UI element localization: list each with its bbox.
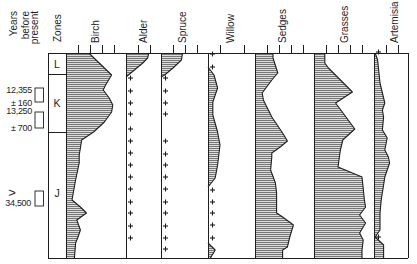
date-sample-box: [35, 191, 44, 206]
presence-plus-icon: [210, 211, 215, 216]
presence-plus-icon: [163, 112, 168, 117]
presence-plus-icon: [128, 200, 133, 205]
presence-plus-icon: [210, 188, 215, 193]
presence-plus-icon: [163, 76, 168, 81]
presence-plus-icon: [163, 236, 168, 241]
presence-plus-icon: [128, 112, 133, 117]
presence-plus-icon: [163, 224, 168, 229]
taxon-label-artemisia: Artemisia: [389, 1, 400, 43]
presence-plus-icon: [128, 187, 133, 192]
presence-plus-icon: [210, 223, 215, 228]
zone-label-j: J: [54, 187, 59, 199]
presence-plus-icon: [163, 152, 168, 157]
series-alder: [126, 45, 151, 258]
presence-plus-icon: [163, 200, 168, 205]
presence-plus-icon: [128, 89, 133, 94]
willow-pollen-area: [208, 67, 220, 187]
presence-plus-icon: [128, 211, 133, 216]
presence-plus-icon: [163, 247, 168, 252]
zone-label-l: L: [54, 58, 60, 70]
series-grasses: [314, 45, 366, 258]
date-sample-box: [35, 88, 44, 102]
years-label-line-1: Years: [8, 11, 19, 36]
sedges-pollen-area: [255, 53, 293, 258]
spruce-pollen-area: [161, 53, 183, 77]
presence-plus-icon: [210, 236, 215, 241]
years-label-line-3: present: [29, 11, 40, 45]
taxon-label-spruce: Spruce: [177, 11, 188, 43]
taxon-label-willow: Willow: [225, 13, 236, 43]
presence-plus-icon: [128, 76, 133, 81]
taxon-label-sedges: Sedges: [277, 9, 288, 43]
presence-plus-icon: [128, 127, 133, 132]
presence-plus-icon: [163, 89, 168, 94]
pollen-diagram: Years before present Zones Birch Alder S…: [0, 0, 417, 264]
series-sedges: [255, 45, 304, 258]
date-2-age: 13,250: [6, 106, 32, 116]
presence-plus-icon: [128, 151, 133, 156]
presence-plus-icon: [163, 175, 168, 180]
presence-plus-icon: [163, 139, 168, 144]
series-artemisia: [374, 45, 399, 258]
presence-plus-icon: [128, 236, 133, 241]
presence-plus-icon: [128, 175, 133, 180]
taxon-label-grasses: Grasses: [339, 6, 350, 43]
presence-plus-icon: [210, 200, 215, 205]
header-labels: Years before present Zones Birch Alder S…: [8, 1, 400, 44]
taxon-label-birch: Birch: [90, 20, 101, 43]
presence-plus-icon: [163, 163, 168, 168]
alder-pollen-area: [126, 53, 149, 77]
taxon-label-alder: Alder: [138, 19, 149, 43]
date-labels: 12,355 ± 160 13,250 ± 700 > 34,500: [5, 85, 32, 208]
presence-plus-icon: [163, 101, 168, 106]
series-birch: [66, 45, 115, 258]
zone-label-k: K: [53, 97, 60, 109]
date-sample-box: [35, 112, 44, 128]
series-willow: [208, 45, 245, 258]
date-3-age: 34,500: [5, 198, 31, 208]
presence-plus-icon: [128, 163, 133, 168]
presence-plus-icon: [128, 101, 133, 106]
series-spruce: [161, 45, 198, 258]
zones-column-label: Zones: [52, 14, 63, 42]
date-2-error: ± 700: [11, 123, 32, 133]
presence-plus-icon: [163, 211, 168, 216]
presence-plus-icon: [128, 139, 133, 144]
presence-plus-icon: [163, 187, 168, 192]
presence-plus-icon: [210, 65, 215, 70]
presence-plus-icon: [128, 224, 133, 229]
zone-labels: L K J: [53, 58, 60, 199]
date-1-age: 12,355: [6, 85, 32, 95]
plot-layer: [35, 45, 399, 258]
